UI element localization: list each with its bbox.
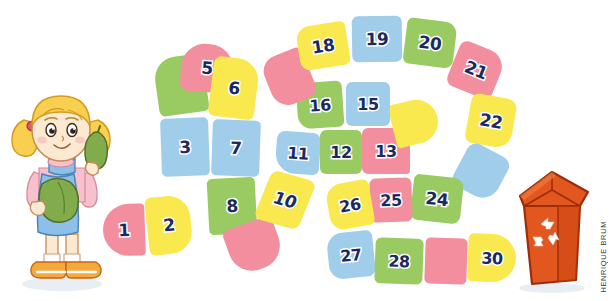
tile-number: 24 [410,174,465,225]
board-tile-24[interactable]: 24 [410,174,465,225]
tile-number: 18 [295,20,351,71]
tile-number: 20 [402,17,457,69]
board-tile-3[interactable]: 3 [160,117,210,177]
board-tile-15[interactable]: 15 [346,82,390,126]
artist-credit: HENRIQUE BRUM [599,221,608,293]
tile-number: 6 [208,55,261,120]
tile-number [387,95,442,149]
board-tile-27[interactable]: 27 [326,230,377,281]
tile-number: 7 [211,119,261,177]
illustration-canvas: 1 2 3 5 6 7 8 [0,0,610,301]
board-tile-14[interactable] [387,95,442,149]
board-tile-22[interactable]: 22 [464,92,518,149]
tile-number: 27 [326,230,377,281]
tile-number: 22 [464,92,518,149]
tile-number: 12 [320,130,362,174]
board-tile-7[interactable]: 7 [211,119,261,177]
board-tile-6[interactable]: 6 [208,55,261,120]
tile-number: 19 [352,16,403,63]
tile-number [424,237,468,284]
tile-number: 3 [160,117,210,177]
tile-number: 25 [369,177,413,222]
recycling-bin[interactable] [508,166,596,294]
girl-holding-vegetables [6,88,118,293]
tile-number: 28 [374,237,424,285]
board-tile-29[interactable] [424,237,468,284]
tile-number: 2 [144,194,194,256]
board-tile-12[interactable]: 12 [320,130,362,174]
board-tile-20[interactable]: 20 [402,17,457,69]
board-tile-28[interactable]: 28 [374,237,424,285]
board-tile-25[interactable]: 25 [369,177,413,222]
board-tile-26[interactable]: 26 [324,179,375,232]
board-tile-19[interactable]: 19 [352,16,403,63]
board-tile-2[interactable]: 2 [144,194,194,256]
tile-number: 26 [324,179,375,232]
vegetable-bundle [39,178,78,222]
board-tile-11[interactable]: 11 [275,131,322,176]
tile-number: 15 [346,82,390,126]
board-tile-18[interactable]: 18 [295,20,351,71]
tile-number: 11 [275,131,322,176]
